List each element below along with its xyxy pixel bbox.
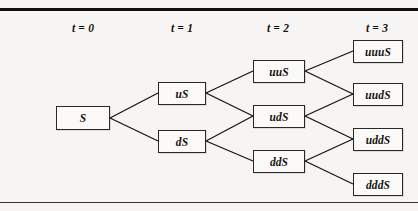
lattice-node-ndd: ddS: [253, 150, 305, 173]
lattice-edge-n0-nd: [110, 118, 158, 141]
lattice-edge-ndd-nddd: [305, 161, 353, 184]
lattice-node-nu: uS: [158, 82, 206, 105]
time-header-t1: t = 1: [142, 22, 222, 34]
lattice-node-nddd: dddS: [353, 173, 403, 196]
lattice-node-nudd: uddS: [353, 128, 403, 151]
lattice-node-nuuu: uuuS: [353, 40, 403, 63]
lattice-node-nd: dS: [158, 130, 206, 153]
lattice-edge-nud-nuud: [305, 94, 353, 116]
top-rule: [0, 8, 418, 11]
lattice-edge-nu-nuu: [206, 71, 253, 93]
time-header-t0: t = 0: [43, 22, 123, 34]
lattice-node-nuud: uudS: [353, 83, 403, 106]
bottom-rule: [0, 202, 418, 203]
lattice-node-nuu: uuS: [253, 60, 305, 83]
lattice-edge-nd-ndd: [206, 141, 253, 161]
lattice-edge-nud-nudd: [305, 116, 353, 139]
lattice-edge-nuu-nuud: [305, 71, 353, 94]
time-header-t3: t = 3: [337, 22, 417, 34]
lattice-node-n0: S: [56, 106, 110, 130]
lattice-edge-n0-nu: [110, 93, 158, 118]
lattice-node-nud: udS: [253, 105, 305, 128]
lattice-edge-ndd-nudd: [305, 139, 353, 161]
lattice-edge-nuu-nuuu: [305, 51, 353, 71]
lattice-edge-nu-nud: [206, 93, 253, 116]
lattice-edge-nd-nud: [206, 116, 253, 141]
binomial-lattice-figure: t = 0t = 1t = 2t = 3 SuSdSuuSudSddSuuuSu…: [0, 0, 418, 211]
time-header-t2: t = 2: [238, 22, 318, 34]
